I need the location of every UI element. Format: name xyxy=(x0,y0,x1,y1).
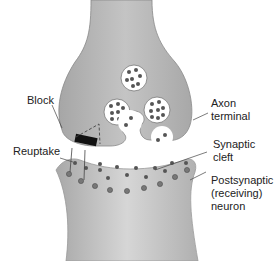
label-reuptake: Reuptake xyxy=(13,145,60,158)
label-axon-terminal: Axon terminal xyxy=(211,97,250,123)
label-postsynaptic-neuron: Postsynaptic (receiving) neuron xyxy=(211,174,273,213)
synapse-diagram: Block Axon terminal Reuptake Synaptic cl… xyxy=(0,0,277,261)
synapse-illustration xyxy=(0,0,277,261)
label-block: Block xyxy=(27,94,54,107)
label-synaptic-cleft: Synaptic cleft xyxy=(213,138,255,164)
